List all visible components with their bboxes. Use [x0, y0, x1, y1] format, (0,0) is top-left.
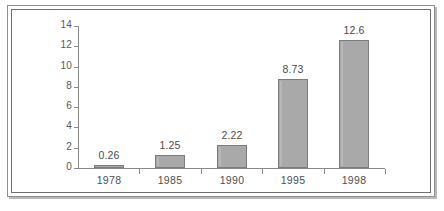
bar-1995[interactable]	[278, 79, 308, 168]
x-axis-category-label-1985: 1985	[146, 174, 194, 186]
x-axis-category-label-1995: 1995	[269, 174, 317, 186]
x-axis-category-label-1998: 1998	[330, 174, 378, 186]
bar-1978[interactable]	[94, 165, 124, 168]
bar-chart-plot-area: 024681012140.2619781.2519852.2219908.731…	[0, 0, 444, 211]
x-axis-tick	[139, 169, 140, 174]
x-axis-tick	[201, 169, 202, 174]
bar-value-label-1978: 0.26	[85, 149, 133, 161]
bar-1990[interactable]	[217, 145, 247, 168]
bar-value-label-1998: 12.6	[330, 24, 378, 36]
y-axis-tick	[74, 26, 78, 27]
y-axis-tick	[74, 127, 78, 128]
bar-highlight	[280, 81, 282, 166]
y-axis-tick	[74, 67, 78, 68]
y-axis-tick	[74, 87, 78, 88]
y-axis-tick-label: 8	[48, 80, 72, 91]
bar-highlight	[341, 42, 343, 166]
x-axis-line	[78, 168, 385, 169]
x-axis-tick	[262, 169, 263, 174]
y-axis-tick-label: 2	[48, 141, 72, 152]
x-axis-category-label-1978: 1978	[85, 174, 133, 186]
y-axis-tick-label: 14	[48, 19, 72, 30]
x-axis-category-label-1990: 1990	[208, 174, 256, 186]
x-axis-tick	[385, 169, 386, 174]
y-axis-tick	[74, 107, 78, 108]
figure-frame: 024681012140.2619781.2519852.2219908.731…	[0, 0, 444, 211]
y-axis-tick-label: 0	[48, 161, 72, 172]
bar-1998[interactable]	[339, 40, 369, 168]
bar-value-label-1985: 1.25	[146, 139, 194, 151]
bar-value-label-1995: 8.73	[269, 63, 317, 75]
y-axis-tick	[74, 168, 78, 169]
x-axis-tick	[324, 169, 325, 174]
y-axis-tick-label: 6	[48, 100, 72, 111]
y-axis-tick	[74, 46, 78, 47]
y-axis-tick-label: 12	[48, 39, 72, 50]
y-axis-tick-label: 4	[48, 120, 72, 131]
y-axis-tick-label: 10	[48, 60, 72, 71]
bar-highlight	[157, 157, 159, 166]
bar-1985[interactable]	[155, 155, 185, 168]
y-axis-line	[78, 26, 79, 169]
y-axis-tick	[74, 148, 78, 149]
bar-value-label-1990: 2.22	[208, 129, 256, 141]
bar-highlight	[219, 147, 221, 166]
